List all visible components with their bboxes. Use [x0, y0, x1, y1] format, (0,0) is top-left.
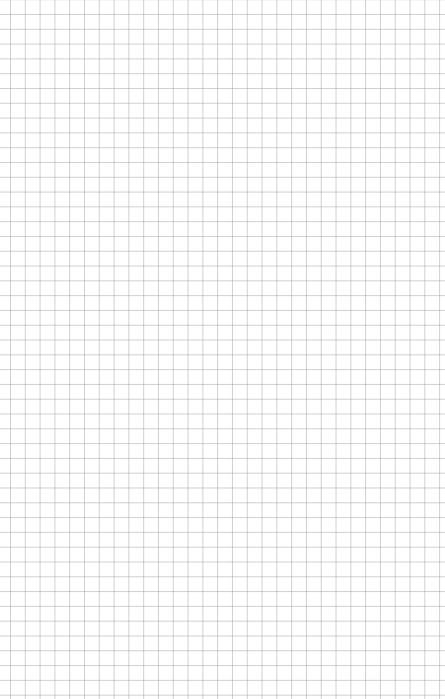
grid-paper-canvas [0, 0, 445, 699]
